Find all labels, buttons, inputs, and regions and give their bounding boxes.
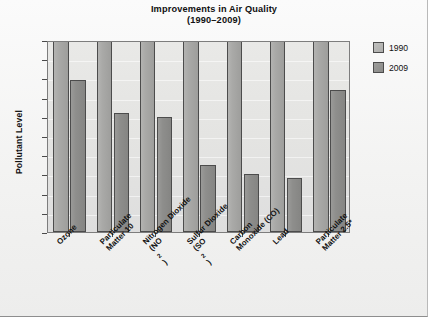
legend-swatch-1990 bbox=[373, 42, 384, 53]
plot-area bbox=[47, 41, 350, 233]
bar-1990-1 bbox=[97, 41, 113, 232]
legend-label-2009: 2009 bbox=[389, 63, 408, 73]
chart-title: Improvements in Air Quality (1990–2009) bbox=[0, 4, 428, 26]
chart-figure: Improvements in Air Quality (1990–2009) … bbox=[0, 0, 428, 317]
bar-1990-6 bbox=[313, 41, 329, 232]
legend-swatch-2009 bbox=[373, 62, 384, 73]
x-axis: OzoneParticulateMatter 10Nitrogen Dioxid… bbox=[0, 233, 428, 317]
bars-layer bbox=[48, 42, 349, 232]
chart-title-line-1: Improvements in Air Quality bbox=[0, 4, 428, 15]
bar-1990-4 bbox=[227, 41, 243, 232]
chart-title-line-2: (1990–2009) bbox=[0, 15, 428, 26]
bar-1990-0 bbox=[53, 41, 69, 232]
bar-2009-0 bbox=[70, 80, 86, 232]
bar-2009-5 bbox=[287, 178, 303, 232]
bar-1990-2 bbox=[140, 41, 156, 232]
legend-item-2009: 2009 bbox=[373, 62, 425, 73]
legend-item-1990: 1990 bbox=[373, 42, 425, 53]
legend-label-1990: 1990 bbox=[389, 43, 408, 53]
chart-legend: 1990 2009 bbox=[373, 42, 425, 82]
